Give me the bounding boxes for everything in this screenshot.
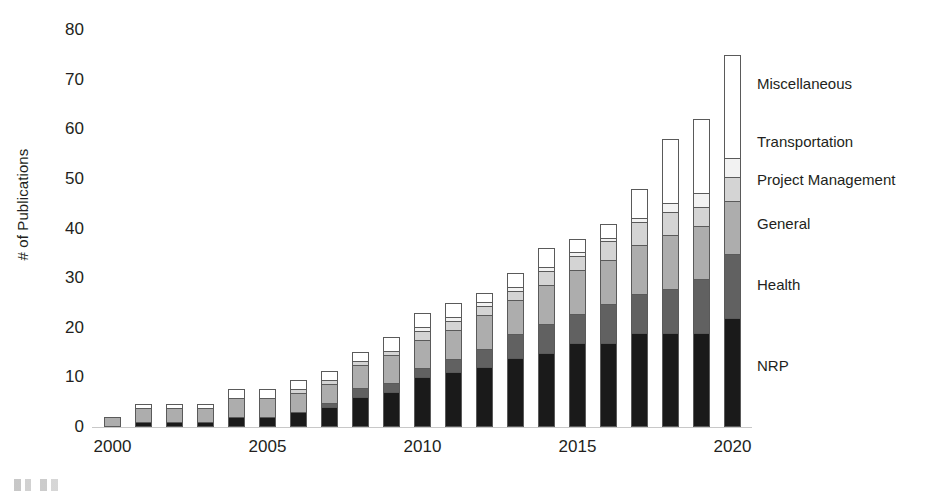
bar-segment-general[interactable] bbox=[631, 245, 648, 295]
bar-segment-nrp[interactable] bbox=[569, 343, 586, 427]
bar-2007[interactable] bbox=[321, 367, 338, 427]
bar-segment-general[interactable] bbox=[569, 270, 586, 315]
bar-2018[interactable] bbox=[662, 134, 679, 427]
bar-segment-nrp[interactable] bbox=[228, 417, 245, 427]
bar-segment-nrp[interactable] bbox=[507, 358, 524, 427]
y-tick-30: 30 bbox=[50, 269, 84, 286]
bar-segment-miscellaneous[interactable] bbox=[631, 189, 648, 219]
bar-2015[interactable] bbox=[569, 233, 586, 427]
bar-segment-general[interactable] bbox=[290, 393, 307, 413]
bar-segment-nrp[interactable] bbox=[476, 367, 493, 427]
bar-segment-health[interactable] bbox=[507, 334, 524, 359]
bar-segment-health[interactable] bbox=[445, 359, 462, 374]
bar-segment-nrp[interactable] bbox=[259, 417, 276, 427]
bar-segment-miscellaneous[interactable] bbox=[600, 224, 617, 239]
bar-segment-nrp[interactable] bbox=[290, 412, 307, 427]
y-tick-0: 0 bbox=[50, 418, 84, 435]
bar-segment-health[interactable] bbox=[693, 279, 710, 334]
bar-segment-general[interactable] bbox=[228, 398, 245, 418]
bar-segment-miscellaneous[interactable] bbox=[445, 303, 462, 318]
bar-segment-health[interactable] bbox=[569, 314, 586, 344]
bar-segment-general[interactable] bbox=[662, 235, 679, 290]
bar-2009[interactable] bbox=[383, 333, 400, 427]
bar-segment-transportation[interactable] bbox=[724, 158, 741, 178]
bar-2014[interactable] bbox=[538, 243, 555, 427]
bar-segment-transportation[interactable] bbox=[693, 193, 710, 208]
bar-segment-general[interactable] bbox=[321, 384, 338, 404]
bar-2006[interactable] bbox=[290, 377, 307, 427]
bar-segment-health[interactable] bbox=[631, 294, 648, 334]
bar-2000[interactable] bbox=[104, 417, 121, 427]
bar-segment-project-management[interactable] bbox=[724, 177, 741, 202]
bar-2019[interactable] bbox=[693, 114, 710, 427]
bar-segment-health[interactable] bbox=[600, 304, 617, 344]
bar-segment-health[interactable] bbox=[724, 254, 741, 319]
bar-segment-nrp[interactable] bbox=[600, 343, 617, 427]
bar-segment-project-management[interactable] bbox=[693, 207, 710, 227]
bar-segment-project-management[interactable] bbox=[538, 271, 555, 286]
y-tick-80: 80 bbox=[50, 21, 84, 38]
bar-segment-miscellaneous[interactable] bbox=[383, 337, 400, 352]
bar-segment-project-management[interactable] bbox=[662, 212, 679, 237]
bar-segment-general[interactable] bbox=[166, 408, 183, 423]
bar-2001[interactable] bbox=[135, 402, 152, 427]
y-axis-title: # of Publications bbox=[14, 125, 31, 285]
bar-segment-general[interactable] bbox=[414, 340, 431, 370]
bar-segment-general[interactable] bbox=[600, 260, 617, 305]
bar-2008[interactable] bbox=[352, 348, 369, 427]
bar-2016[interactable] bbox=[600, 219, 617, 427]
bar-segment-general[interactable] bbox=[538, 285, 555, 325]
bar-segment-nrp[interactable] bbox=[724, 318, 741, 427]
bar-segment-health[interactable] bbox=[538, 324, 555, 354]
bar-segment-nrp[interactable] bbox=[693, 333, 710, 427]
bar-segment-health[interactable] bbox=[662, 289, 679, 334]
bar-segment-project-management[interactable] bbox=[569, 256, 586, 271]
bar-segment-nrp[interactable] bbox=[631, 333, 648, 427]
bar-segment-general[interactable] bbox=[476, 315, 493, 350]
bar-2011[interactable] bbox=[445, 298, 462, 427]
bar-segment-miscellaneous[interactable] bbox=[693, 119, 710, 193]
bar-2005[interactable] bbox=[259, 387, 276, 427]
bar-segment-nrp[interactable] bbox=[538, 353, 555, 427]
bar-segment-general[interactable] bbox=[352, 365, 369, 390]
bar-2017[interactable] bbox=[631, 184, 648, 427]
y-tick-20: 20 bbox=[50, 319, 84, 336]
bar-segment-general[interactable] bbox=[383, 355, 400, 385]
bar-segment-project-management[interactable] bbox=[631, 222, 648, 247]
legend-label-health: Health bbox=[757, 276, 800, 293]
bar-segment-nrp[interactable] bbox=[352, 397, 369, 427]
bar-segment-general[interactable] bbox=[724, 201, 741, 256]
bar-segment-miscellaneous[interactable] bbox=[414, 313, 431, 328]
bar-segment-miscellaneous[interactable] bbox=[507, 273, 524, 288]
bar-2020[interactable] bbox=[724, 50, 741, 427]
x-tick-2010: 2010 bbox=[388, 437, 458, 457]
bar-2003[interactable] bbox=[197, 402, 214, 427]
bar-segment-health[interactable] bbox=[476, 349, 493, 369]
bar-segment-miscellaneous[interactable] bbox=[662, 139, 679, 204]
bar-segment-general[interactable] bbox=[135, 408, 152, 423]
bar-segment-general[interactable] bbox=[197, 408, 214, 423]
bar-2013[interactable] bbox=[507, 268, 524, 427]
bar-segment-nrp[interactable] bbox=[414, 377, 431, 427]
bar-segment-general[interactable] bbox=[259, 398, 276, 418]
y-tick-40: 40 bbox=[50, 220, 84, 237]
bar-segment-nrp[interactable] bbox=[445, 372, 462, 427]
legend-label-miscellaneous: Miscellaneous bbox=[757, 75, 852, 92]
bar-segment-nrp[interactable] bbox=[383, 392, 400, 427]
x-tick-2000: 2000 bbox=[78, 437, 148, 457]
bar-2012[interactable] bbox=[476, 288, 493, 427]
y-tick-10: 10 bbox=[50, 368, 84, 385]
bar-segment-general[interactable] bbox=[693, 226, 710, 281]
bar-2004[interactable] bbox=[228, 387, 245, 427]
bar-segment-nrp[interactable] bbox=[321, 407, 338, 427]
bar-segment-general[interactable] bbox=[104, 417, 121, 427]
bar-segment-project-management[interactable] bbox=[600, 241, 617, 261]
bar-segment-miscellaneous[interactable] bbox=[538, 248, 555, 268]
bar-segment-general[interactable] bbox=[445, 330, 462, 360]
bar-segment-miscellaneous[interactable] bbox=[724, 55, 741, 159]
bar-2002[interactable] bbox=[166, 402, 183, 427]
bar-segment-miscellaneous[interactable] bbox=[569, 239, 586, 254]
bar-2010[interactable] bbox=[414, 308, 431, 427]
bar-segment-nrp[interactable] bbox=[662, 333, 679, 427]
bar-segment-general[interactable] bbox=[507, 300, 524, 335]
